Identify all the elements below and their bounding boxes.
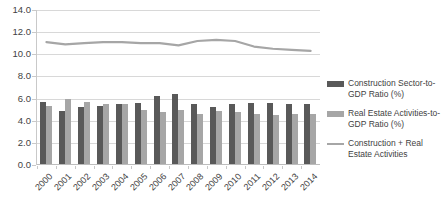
- y-axis-tick-label: 14.0: [13, 5, 32, 15]
- x-axis-tick-mark: [56, 166, 57, 169]
- x-axis-tick-mark: [207, 166, 208, 169]
- chart-legend: Construction Sector-to-GDP Ratio (%)Real…: [327, 78, 441, 168]
- legend-entry: Real Estate Activities-to-GDP Ratio (%): [327, 108, 441, 129]
- bar-group: [37, 10, 56, 165]
- bar-series-layer: [37, 10, 320, 165]
- plot-area: [37, 10, 320, 165]
- x-axis-tick-mark: [112, 166, 113, 169]
- y-axis-tick-mark: [32, 165, 36, 166]
- bar-real-estate: [84, 102, 90, 165]
- bar-group: [207, 10, 226, 165]
- bar-group: [75, 10, 94, 165]
- bar-group: [263, 10, 282, 165]
- legend-bar-swatch-icon: [327, 81, 344, 87]
- bar-real-estate: [65, 99, 71, 165]
- legend-label: Construction + Real Estate Activities: [348, 138, 441, 159]
- bar-real-estate: [122, 104, 128, 165]
- bar-group: [56, 10, 75, 165]
- bar-group: [112, 10, 131, 165]
- bar-group: [188, 10, 207, 165]
- bar-group: [244, 10, 263, 165]
- x-axis-baseline: [37, 164, 320, 165]
- bar-real-estate: [254, 114, 260, 165]
- bar-real-estate: [310, 114, 316, 165]
- x-axis-tick-mark: [245, 166, 246, 169]
- y-axis-tick-label: 4.0: [18, 116, 31, 126]
- bar-group: [169, 10, 188, 165]
- legend-entry: Construction + Real Estate Activities: [327, 138, 441, 159]
- x-axis-tick-mark: [75, 166, 76, 169]
- bar-real-estate: [46, 106, 52, 165]
- x-axis-tick-mark: [150, 166, 151, 169]
- bar-group: [150, 10, 169, 165]
- bar-group: [131, 10, 150, 165]
- y-axis-tick-label: 12.0: [13, 27, 32, 37]
- x-axis-tick-mark: [188, 166, 189, 169]
- x-axis-tick-mark: [263, 166, 264, 169]
- y-axis-tick-label: 8.0: [18, 72, 31, 82]
- bar-group: [282, 10, 301, 165]
- legend-label: Construction Sector-to-GDP Ratio (%): [348, 78, 441, 99]
- bar-real-estate: [160, 112, 166, 165]
- legend-bar-swatch-icon: [327, 111, 344, 117]
- x-axis-tick-mark: [131, 166, 132, 169]
- bar-group: [226, 10, 245, 165]
- bar-real-estate: [292, 114, 298, 165]
- legend-entry: Construction Sector-to-GDP Ratio (%): [327, 78, 441, 99]
- y-axis-tick-label: 0.0: [18, 160, 31, 170]
- x-axis-tick-mark: [169, 166, 170, 169]
- bar-real-estate: [273, 115, 279, 165]
- x-axis-tick-mark: [37, 166, 38, 169]
- legend-label: Real Estate Activities-to-GDP Ratio (%): [348, 108, 441, 129]
- bar-real-estate: [141, 110, 147, 165]
- y-axis: 0.02.04.06.08.010.012.014.0: [0, 0, 34, 212]
- bar-real-estate: [197, 114, 203, 165]
- x-axis-tick-mark: [94, 166, 95, 169]
- y-axis-tick-label: 2.0: [18, 138, 31, 148]
- x-axis-tick-mark: [226, 166, 227, 169]
- legend-line-swatch-icon: [327, 143, 344, 145]
- bar-real-estate: [235, 112, 241, 165]
- combo-chart: 0.02.04.06.08.010.012.014.0 200020012002…: [0, 0, 441, 212]
- y-axis-tick-label: 10.0: [13, 50, 32, 60]
- y-axis-tick-label: 6.0: [18, 94, 31, 104]
- bar-group: [301, 10, 320, 165]
- x-axis: 2000200120022003200420052006200720082009…: [37, 166, 320, 212]
- x-axis-tick-mark: [301, 166, 302, 169]
- x-axis-tick-mark: [282, 166, 283, 169]
- bar-real-estate: [178, 110, 184, 165]
- bar-real-estate: [216, 111, 222, 165]
- bar-real-estate: [103, 104, 109, 165]
- bar-group: [94, 10, 113, 165]
